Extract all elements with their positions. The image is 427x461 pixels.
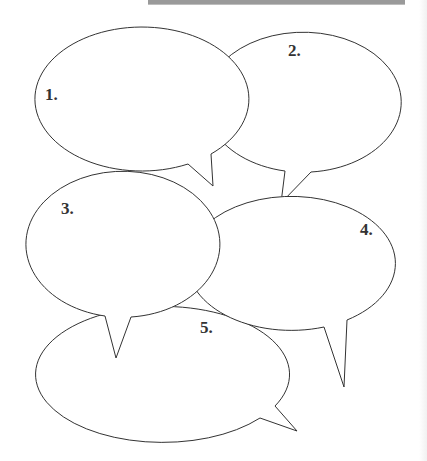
speech-bubble-1-shape	[35, 27, 249, 186]
speech-bubble-1[interactable]: 1.	[35, 27, 249, 186]
speech-bubble-4-label: 4.	[360, 220, 373, 239]
speech-bubble-worksheet: 2. 1. 5. 4. 3.	[0, 0, 427, 461]
bubbles-diagram: 2. 1. 5. 4. 3.	[0, 0, 427, 461]
speech-bubble-5-label: 5.	[200, 318, 213, 337]
speech-bubble-1-label: 1.	[45, 85, 58, 104]
speech-bubble-2-label: 2.	[288, 41, 301, 60]
speech-bubble-3-label: 3.	[61, 199, 74, 218]
